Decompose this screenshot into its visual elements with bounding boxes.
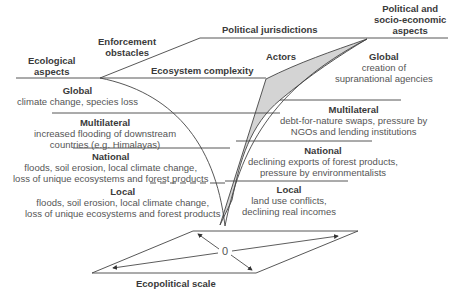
ecopolitical-scale-caption: Ecopolitical scale — [136, 278, 216, 289]
left-national: Nationalfloods, soil erosion, local clim… — [13, 151, 208, 184]
left-global: Globalclimate change, species loss — [17, 85, 138, 107]
ecosystem-complexity-label: Ecosystem complexity — [151, 65, 253, 76]
ecological-aspects-label: Ecologicalaspects — [28, 55, 76, 77]
left-multilateral: Multilateralincreased flooding of downst… — [34, 117, 176, 150]
enforcement-obstacles-label: Enforcementobstacles — [98, 36, 156, 58]
right-national: Nationaldeclining exports of forest prod… — [248, 145, 398, 178]
right-global: Globalcreation ofsupranational agencies — [335, 51, 433, 84]
right-multilateral: Multilateraldebt-for-nature swaps, press… — [280, 104, 427, 137]
origin-label: 0 — [221, 246, 229, 257]
actors-label: Actors — [266, 51, 296, 62]
left-local: Localfloods, soil erosion, local climate… — [25, 186, 220, 219]
political-jurisdictions-label: Political jurisdictions — [222, 24, 318, 35]
political-socio-economic-label: Political andsocio-economicaspects — [374, 3, 446, 36]
right-local: Localland use conflicts,declining real i… — [242, 184, 336, 217]
